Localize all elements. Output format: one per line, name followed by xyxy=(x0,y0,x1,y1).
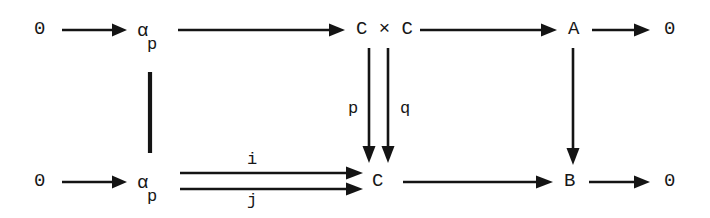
arrow-bottom-zero-to-alpha xyxy=(62,176,127,189)
arrow-bottom-c-to-b xyxy=(403,176,553,189)
arrow-vertical-map-p xyxy=(363,48,376,163)
arrow-vertical-a-to-b xyxy=(567,48,580,165)
arrow-vertical-map-q xyxy=(382,48,395,163)
arrow-top-zero-to-alpha xyxy=(62,24,127,37)
arrow-top-cxc-to-a xyxy=(420,24,557,37)
arrow-top-alpha-to-cxc xyxy=(178,24,345,37)
arrow-bottom-parallel-j xyxy=(180,183,363,196)
arrow-layer xyxy=(0,0,710,218)
arrow-bottom-b-to-zero xyxy=(589,176,650,189)
commutative-diagram: 0 α p C × C A 0 0 α p C B 0 i j p q xyxy=(0,0,710,218)
arrow-top-a-to-zero xyxy=(592,24,650,37)
arrow-bottom-parallel-i xyxy=(180,167,363,180)
